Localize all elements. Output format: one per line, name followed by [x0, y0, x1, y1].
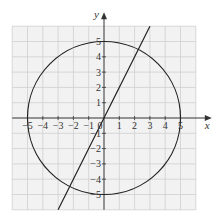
y-axis-label: y: [93, 8, 99, 20]
plot-svg: −5−4−3−2−1012345−5−4−3−2−112345 x y: [0, 0, 215, 222]
x-tick-label: 1: [117, 120, 122, 131]
x-tick-label: −4: [37, 120, 48, 131]
x-tick-label: −3: [53, 120, 64, 131]
y-tick-label: −3: [90, 158, 101, 169]
y-tick-label: 4: [96, 51, 101, 62]
y-tick-label: 2: [96, 82, 101, 93]
coordinate-plane-chart: −5−4−3−2−1012345−5−4−3−2−112345 x y: [0, 0, 215, 222]
x-tick-label: −2: [68, 120, 79, 131]
x-tick-label: 4: [163, 120, 168, 131]
y-tick-label: −4: [90, 174, 101, 185]
x-tick-label: 3: [147, 120, 152, 131]
y-tick-label: 1: [96, 97, 101, 108]
y-tick-label: −2: [90, 143, 101, 154]
x-tick-label: 2: [132, 120, 137, 131]
y-tick-label: 3: [96, 67, 101, 78]
x-axis-label: x: [204, 119, 210, 131]
y-axis-arrow-icon: [101, 12, 107, 19]
